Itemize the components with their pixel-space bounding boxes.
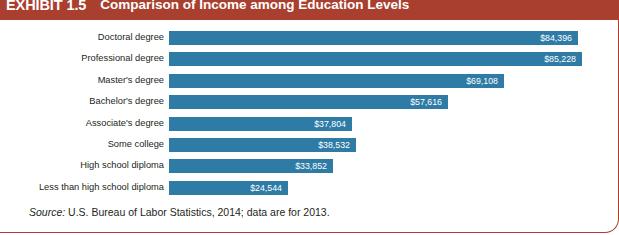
bar-row: Master's degree$69,108 [0,73,619,88]
bar-value-label: $84,396 [530,31,572,45]
bar-row: High school diploma$33,852 [0,158,619,173]
bar [169,74,504,88]
bar-category-label: Doctoral degree [0,30,164,45]
bar-row: Bachelor's degree$57,616 [0,94,619,109]
exhibit-header-band: EXHIBIT 1.5Comparison of Income among Ed… [0,0,619,20]
bar-value-label: $69,108 [456,74,498,88]
source-text: U.S. Bureau of Labor Statistics, 2014; d… [65,206,329,218]
bar-category-label: High school diploma [0,158,164,173]
bar-row: Professional degree$85,228 [0,51,619,66]
exhibit-title: Comparison of Income among Education Lev… [100,0,409,12]
bar-value-label: $37,804 [304,117,346,131]
bar-row: Associate's degree$37,804 [0,116,619,131]
source-label: Source: [29,206,65,218]
bar-value-label: $38,532 [308,138,350,152]
bar-category-label: Bachelor's degree [0,94,164,109]
bar-chart: Doctoral degree$84,396Professional degre… [0,20,619,200]
bar [169,31,578,45]
bar-category-label: Master's degree [0,73,164,88]
bar-category-label: Less than high school diploma [0,180,164,195]
bar-row: Some college$38,532 [0,137,619,152]
source-note: Source: U.S. Bureau of Labor Statistics,… [29,206,330,218]
bar-category-label: Associate's degree [0,116,164,131]
bar-row: Less than high school diploma$24,544 [0,180,619,195]
bar-category-label: Some college [0,137,164,152]
bar-value-label: $57,616 [400,95,442,109]
bar-value-label: $33,852 [285,159,327,173]
exhibit-number-label: EXHIBIT 1.5 [6,0,86,13]
bar-value-label: $24,544 [240,181,282,195]
bar-category-label: Professional degree [0,51,164,66]
exhibit-header-inner: EXHIBIT 1.5Comparison of Income among Ed… [6,0,409,15]
exhibit-figure: EXHIBIT 1.5Comparison of Income among Ed… [0,0,619,235]
bar-value-label: $85,228 [534,52,576,66]
bar-row: Doctoral degree$84,396 [0,30,619,45]
bar [169,52,582,66]
